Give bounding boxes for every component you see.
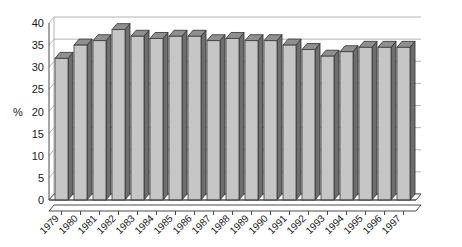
x-tick-label-1992: 1992	[284, 212, 308, 236]
bar-1981[interactable]	[93, 35, 111, 200]
y-tick-label: 30	[32, 61, 44, 73]
bar-1984[interactable]	[150, 32, 168, 200]
bar-1983[interactable]	[131, 30, 149, 200]
bar-side-face	[163, 32, 168, 200]
bar-front-face	[131, 36, 144, 200]
bar-1995[interactable]	[359, 41, 377, 200]
bar-side-face	[144, 30, 149, 200]
y-axis: 0510152025303540	[32, 17, 44, 206]
bar-front-face	[264, 41, 277, 200]
bar-front-face	[207, 41, 220, 200]
bar-1987[interactable]	[207, 35, 225, 200]
bar-front-face	[283, 45, 296, 200]
bar-side-face	[106, 35, 111, 200]
x-tick-label-1997: 1997	[379, 212, 403, 236]
x-axis: 1979198019811982198319841985198619871988…	[37, 211, 403, 236]
bar-side-face	[315, 44, 320, 200]
x-tick-label-1986: 1986	[170, 212, 194, 236]
y-tick-label: 25	[32, 83, 44, 95]
bar-1979[interactable]	[55, 52, 73, 200]
y-tick-label: 0	[38, 194, 44, 206]
bar-side-face	[182, 30, 187, 200]
bar-1980[interactable]	[74, 39, 92, 200]
bar-side-face	[125, 24, 130, 200]
x-tick-label-1996: 1996	[360, 212, 384, 236]
bar-1996[interactable]	[378, 41, 396, 200]
x-tick-label-1979: 1979	[37, 212, 61, 236]
bar-front-face	[302, 50, 315, 200]
bar-1993[interactable]	[321, 50, 339, 200]
bar-front-face	[245, 41, 258, 200]
bar-side-face	[277, 35, 282, 200]
bar-side-face	[391, 41, 396, 200]
y-tick-label: 35	[32, 39, 44, 51]
y-axis-label: %	[13, 106, 23, 118]
x-tick-label-1981: 1981	[75, 212, 99, 236]
y-tick-label: 20	[32, 106, 44, 118]
x-tick-label-1990: 1990	[246, 212, 270, 236]
x-tick-label-1993: 1993	[303, 212, 327, 236]
x-tick-label-1991: 1991	[265, 212, 289, 236]
bar-1989[interactable]	[245, 35, 263, 200]
bar-front-face	[397, 47, 410, 200]
x-tick-label-1980: 1980	[56, 212, 80, 236]
x-tick-label-1985: 1985	[151, 212, 175, 236]
y-tick-label: 40	[32, 17, 44, 29]
bar-side-face	[353, 46, 358, 200]
gridline-40	[49, 17, 421, 23]
bar-front-face	[150, 38, 163, 200]
bar-1988[interactable]	[226, 32, 244, 200]
y-tick-label: 10	[32, 150, 44, 162]
bar-side-face	[410, 41, 415, 200]
bar-1985[interactable]	[169, 30, 187, 200]
bar-side-face	[372, 41, 377, 200]
bar-side-face	[220, 35, 225, 200]
bar-side-face	[296, 39, 301, 200]
chart-canvas: 0510152025303540%19791980198119821983198…	[0, 0, 462, 247]
bar-1986[interactable]	[188, 30, 206, 200]
x-tick-label-1987: 1987	[189, 212, 213, 236]
bar-side-face	[334, 50, 339, 200]
bar-front-face	[74, 45, 87, 200]
x-tick-label-1984: 1984	[132, 212, 156, 236]
bar-front-face	[359, 47, 372, 200]
bar-side-face	[68, 52, 73, 200]
bar-front-face	[226, 38, 239, 200]
bar-front-face	[340, 52, 353, 200]
x-tick-label-1988: 1988	[208, 212, 232, 236]
bar-side-face	[201, 30, 206, 200]
x-tick-label-1982: 1982	[94, 212, 118, 236]
bar-front-face	[188, 36, 201, 200]
x-tick-label-1983: 1983	[113, 212, 137, 236]
bar-side-face	[239, 32, 244, 200]
y-tick-label: 15	[32, 128, 44, 140]
bar-front-face	[55, 58, 68, 200]
bar-front-face	[321, 56, 334, 200]
x-tick-label-1994: 1994	[322, 212, 346, 236]
bar-1997[interactable]	[397, 41, 415, 200]
bar-1994[interactable]	[340, 46, 358, 200]
bar-chart: 0510152025303540%19791980198119821983198…	[0, 0, 462, 247]
bar-front-face	[378, 47, 391, 200]
bar-1990[interactable]	[264, 35, 282, 200]
bar-side-face	[258, 35, 263, 200]
bar-1982[interactable]	[112, 24, 130, 200]
x-axis-band	[49, 205, 421, 211]
x-tick-label-1989: 1989	[227, 212, 251, 236]
y-tick-label: 5	[38, 172, 44, 184]
bar-1992[interactable]	[302, 44, 320, 200]
bar-front-face	[169, 36, 182, 200]
x-tick-label-1995: 1995	[341, 212, 365, 236]
bar-front-face	[93, 41, 106, 200]
bar-series	[55, 24, 415, 200]
bar-1991[interactable]	[283, 39, 301, 200]
bar-side-face	[87, 39, 92, 200]
bar-front-face	[112, 30, 125, 200]
